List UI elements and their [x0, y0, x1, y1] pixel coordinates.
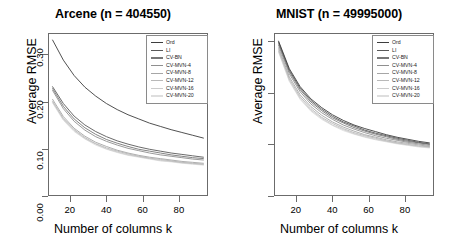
x-tick-mark	[369, 196, 370, 202]
x-tick-mark	[332, 196, 333, 202]
legend-label: Ord	[392, 39, 401, 47]
legend-item: CV-MVN-20	[149, 92, 205, 100]
x-tick-mark	[106, 196, 107, 202]
legend-item: CV-MVN-20	[375, 92, 431, 100]
x-tick-mark	[296, 196, 297, 202]
y-tick-label: 0.30	[34, 40, 45, 74]
legend-line-swatch	[377, 73, 389, 74]
legend-item: CV-BN	[375, 54, 431, 62]
legend-label: CV-MVN-16	[392, 85, 420, 93]
legend-item: CV-MVN-4	[375, 62, 431, 70]
legend-item: CV-MVN-8	[375, 69, 431, 77]
legend-label: CV-MVN-20	[392, 92, 420, 100]
x-tick-label: 80	[392, 204, 418, 215]
legend-item: CV-BN	[149, 54, 205, 62]
legend-item: Ord	[375, 39, 431, 47]
legend-label: CV-BN	[392, 54, 408, 62]
legend-label: CV-MVN-16	[166, 85, 194, 93]
legend-item: CV-MVN-8	[149, 69, 205, 77]
legend-item: Ord	[149, 39, 205, 47]
legend-line-swatch	[377, 95, 389, 96]
y-tick-label: 0.10	[34, 144, 45, 178]
legend-line-swatch	[151, 57, 163, 58]
y-tick-label: 0.00	[34, 196, 45, 230]
legend: OrdLICV-BNCV-MVN-4CV-MVN-8CV-MVN-12CV-MV…	[372, 35, 434, 104]
legend-label: LI	[166, 47, 170, 55]
y-axis-label: Average RMSE	[25, 1, 39, 161]
figure-root: Arcene (n = 404550) Average RMSE Number …	[0, 0, 453, 252]
legend-line-swatch	[151, 65, 163, 66]
legend-label: CV-MVN-4	[392, 62, 417, 70]
y-tick-mark	[268, 41, 274, 42]
legend-line-swatch	[377, 65, 389, 66]
x-tick-mark	[405, 196, 406, 202]
legend-line-swatch	[377, 57, 389, 58]
x-tick-mark	[143, 196, 144, 202]
chart-panel-mnist: MNIST (n = 49995000) Average RMSE Number…	[226, 0, 452, 252]
legend-item: LI	[149, 47, 205, 55]
x-tick-label: 80	[166, 204, 192, 215]
legend-label: CV-MVN-12	[166, 77, 194, 85]
legend-item: CV-MVN-4	[149, 62, 205, 70]
legend-label: CV-MVN-8	[166, 69, 191, 77]
x-tick-label: 60	[130, 204, 156, 215]
legend-line-swatch	[151, 95, 163, 96]
y-tick-mark	[268, 144, 274, 145]
series-line	[53, 102, 204, 165]
legend-line-swatch	[377, 50, 389, 51]
legend-label: Ord	[166, 39, 175, 47]
legend: OrdLICV-BNCV-MVN-4CV-MVN-8CV-MVN-12CV-MV…	[146, 35, 208, 104]
legend-label: CV-MVN-20	[166, 92, 194, 100]
y-axis-label: Average RMSE	[251, 1, 265, 161]
legend-item: CV-MVN-12	[375, 77, 431, 85]
legend-line-swatch	[377, 88, 389, 89]
legend-line-swatch	[151, 50, 163, 51]
legend-line-swatch	[151, 80, 163, 81]
x-axis-label: Number of columns k	[226, 222, 452, 236]
legend-label: CV-MVN-8	[392, 69, 417, 77]
legend-item: LI	[375, 47, 431, 55]
legend-line-swatch	[377, 80, 389, 81]
legend-label: LI	[392, 47, 396, 55]
legend-item: CV-MVN-12	[149, 77, 205, 85]
y-tick-mark	[268, 93, 274, 94]
legend-line-swatch	[151, 42, 163, 43]
x-tick-label: 60	[356, 204, 382, 215]
legend-item: CV-MVN-16	[149, 85, 205, 93]
legend-line-swatch	[151, 73, 163, 74]
x-tick-label: 40	[93, 204, 119, 215]
x-tick-mark	[179, 196, 180, 202]
legend-label: CV-MVN-4	[166, 62, 191, 70]
x-tick-label: 20	[57, 204, 83, 215]
x-tick-mark	[70, 196, 71, 202]
legend-label: CV-MVN-12	[392, 77, 420, 85]
legend-item: CV-MVN-16	[375, 85, 431, 93]
y-tick-label: 0.20	[34, 92, 45, 126]
legend-line-swatch	[151, 88, 163, 89]
legend-label: CV-BN	[166, 54, 182, 62]
legend-line-swatch	[377, 42, 389, 43]
x-tick-label: 20	[283, 204, 309, 215]
x-tick-label: 40	[319, 204, 345, 215]
y-tick-mark	[268, 196, 274, 197]
